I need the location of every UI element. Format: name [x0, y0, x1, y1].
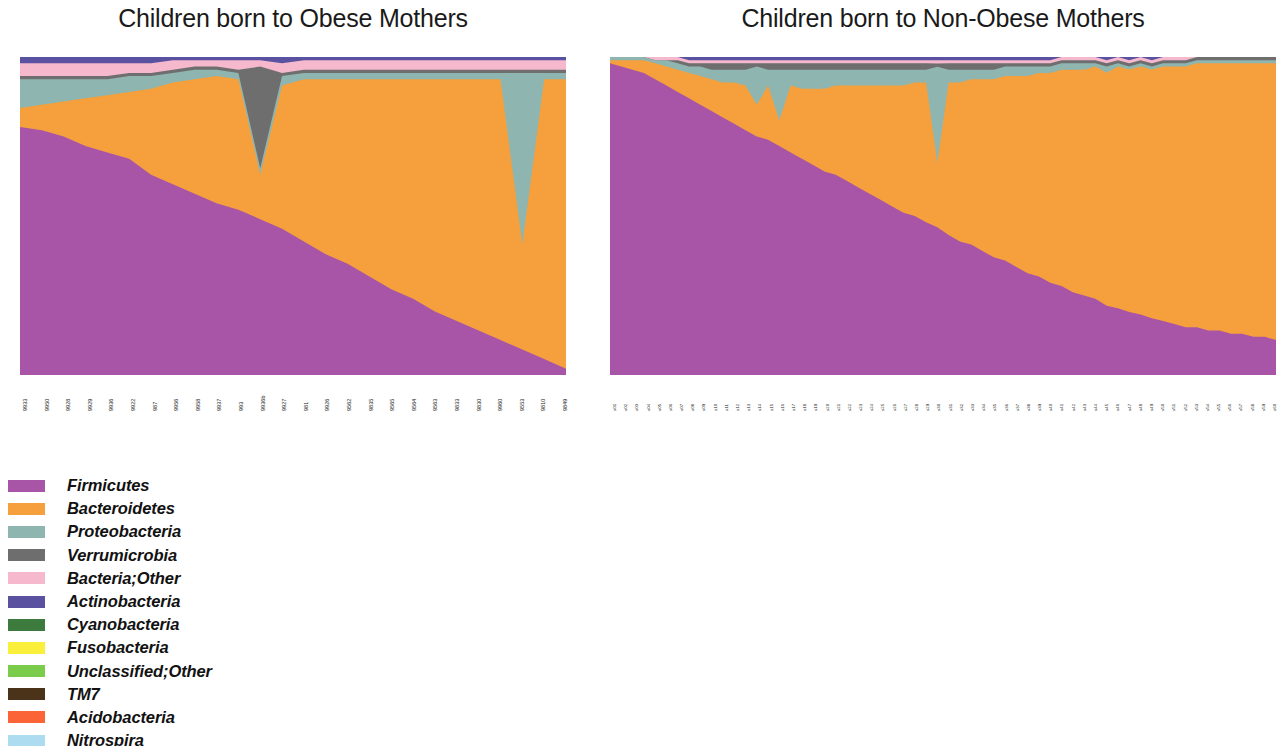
- x-tick-label: s06: [668, 404, 673, 411]
- legend-item: Nitrospira: [6, 729, 426, 746]
- x-tick-label: s52: [1183, 404, 1188, 411]
- x-tick-label: 981: [303, 402, 309, 411]
- legend-item: Unclassified;Other: [6, 660, 426, 683]
- x-tick-label: s26: [892, 404, 897, 411]
- x-tick-label: s25: [880, 404, 885, 411]
- x-tick-label: s34: [981, 404, 986, 411]
- legend-swatch-icon: [8, 503, 45, 515]
- x-tick-label: 9929: [87, 399, 93, 411]
- legend-label: Cyanobacteria: [67, 615, 179, 634]
- legend-item: Bacteria;Other: [6, 567, 426, 590]
- legend-swatch-icon: [8, 572, 45, 584]
- legend-swatch-icon: [8, 642, 45, 654]
- legend-label: Fusobacteria: [67, 638, 169, 657]
- x-tick-label: s49: [1149, 404, 1154, 411]
- x-tick-label: 9849: [562, 399, 568, 411]
- x-tick-label: s48: [1138, 404, 1143, 411]
- x-tick-label: s05: [657, 404, 662, 411]
- x-tick-label: s15: [769, 404, 774, 411]
- chart-svg-non-obese: [610, 57, 1276, 375]
- x-tick-label: s60: [1272, 404, 1277, 411]
- x-tick-label: s28: [914, 404, 919, 411]
- legend-item: Verrumicrobia: [6, 544, 426, 567]
- panel-non-obese: Children born to Non-Obese Mothers s01s0…: [610, 4, 1276, 424]
- x-tick-label: s01: [612, 404, 617, 411]
- x-tick-label: s27: [903, 404, 908, 411]
- x-tick-label: 9810: [540, 399, 546, 411]
- legend-label: TM7: [67, 685, 100, 704]
- legend-item: Bacteroidetes: [6, 497, 426, 520]
- x-tick-label: s54: [1205, 404, 1210, 411]
- x-tick-label: 9950: [44, 399, 50, 411]
- x-tick-label: s40: [1048, 404, 1053, 411]
- x-tick-label: 9937: [216, 399, 222, 411]
- x-tick-label: s59: [1261, 404, 1266, 411]
- x-tick-label: s46: [1115, 404, 1120, 411]
- legend-item: TM7: [6, 683, 426, 706]
- x-tick-label: 9565: [389, 399, 395, 411]
- x-tick-label: s23: [858, 404, 863, 411]
- legend-label: Verrumicrobia: [67, 546, 177, 565]
- stacked-area-chart-obese: [20, 57, 566, 375]
- x-tick-label: s50: [1160, 404, 1165, 411]
- legend-label: Nitrospira: [67, 731, 144, 746]
- x-tick-label: s39: [1037, 404, 1042, 411]
- x-tick-label: 9928: [65, 399, 71, 411]
- x-tick-label: s37: [1015, 404, 1020, 411]
- x-tick-label: 9562: [346, 399, 352, 411]
- x-tick-label: s19: [813, 404, 818, 411]
- legend-label: Bacteroidetes: [67, 499, 175, 518]
- legend-label: Proteobacteria: [67, 522, 181, 541]
- x-tick-label: 9936: [108, 399, 114, 411]
- legend-label: Bacteria;Other: [67, 569, 180, 588]
- x-tick-label: s17: [791, 404, 796, 411]
- x-axis-non-obese: s01s02s03s04s05s06s07s08s09s10s11s12s13s…: [610, 377, 1276, 411]
- x-tick-label: 9922: [130, 399, 136, 411]
- x-tick-label: s44: [1093, 404, 1098, 411]
- x-tick-label: s36: [1004, 404, 1009, 411]
- x-tick-label: s47: [1127, 404, 1132, 411]
- x-axis-obese: 9933995099289929993699229879956995899379…: [20, 377, 566, 411]
- x-tick-label: 9927: [281, 399, 287, 411]
- x-tick-label: s55: [1216, 404, 1221, 411]
- legend-label: Actinobacteria: [67, 592, 180, 611]
- legend-swatch-icon: [8, 480, 45, 492]
- x-tick-label: s32: [959, 404, 964, 411]
- x-tick-label: s56: [1227, 404, 1232, 411]
- x-tick-label: 9830: [476, 399, 482, 411]
- x-tick-label: s41: [1059, 404, 1064, 411]
- x-tick-label: 9956: [173, 399, 179, 411]
- x-tick-label: s53: [1194, 404, 1199, 411]
- x-tick-label: 9960: [497, 399, 503, 411]
- x-tick-label: s38: [1026, 404, 1031, 411]
- x-tick-label: s42: [1071, 404, 1076, 411]
- legend-swatch-icon: [8, 688, 45, 700]
- x-tick-label: s14: [757, 404, 762, 411]
- x-tick-label: s13: [746, 404, 751, 411]
- legend: FirmicutesBacteroidetesProteobacteriaVer…: [6, 474, 426, 746]
- x-tick-label: s22: [847, 404, 852, 411]
- panel-title-obese: Children born to Obese Mothers: [20, 4, 566, 33]
- x-tick-label: s24: [869, 404, 874, 411]
- x-tick-label: 9958: [195, 399, 201, 411]
- x-tick-label: s35: [992, 404, 997, 411]
- legend-swatch-icon: [8, 665, 45, 677]
- legend-item: Actinobacteria: [6, 590, 426, 613]
- x-tick-label: s31: [948, 404, 953, 411]
- x-tick-label: 9553: [519, 399, 525, 411]
- x-tick-label: s30: [936, 404, 941, 411]
- legend-swatch-icon: [8, 596, 45, 608]
- x-tick-label: s12: [735, 404, 740, 411]
- x-tick-label: s57: [1238, 404, 1243, 411]
- legend-item: Acidobacteria: [6, 706, 426, 729]
- legend-swatch-icon: [8, 619, 45, 631]
- x-tick-label: 993: [238, 402, 244, 411]
- legend-swatch-icon: [8, 526, 45, 538]
- panel-obese: Children born to Obese Mothers 993399509…: [20, 4, 566, 424]
- x-tick-label: s08: [690, 404, 695, 411]
- x-tick-label: 9835: [368, 399, 374, 411]
- x-tick-label: s33: [970, 404, 975, 411]
- legend-item: Fusobacteria: [6, 636, 426, 659]
- x-tick-label: s29: [925, 404, 930, 411]
- x-tick-label: s04: [646, 404, 651, 411]
